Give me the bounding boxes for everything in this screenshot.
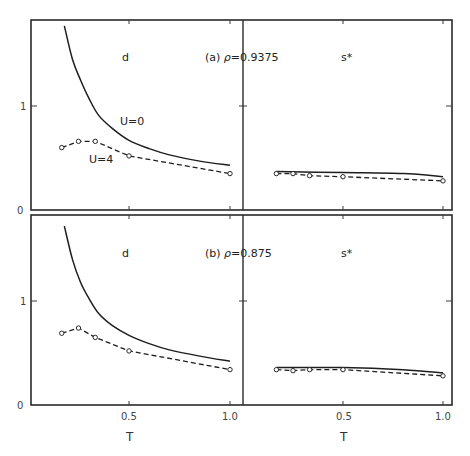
panel-a-s-label: s* [341, 51, 353, 64]
panel-a-d-series-u0-line [64, 26, 230, 165]
panel-a-s-point [341, 175, 345, 179]
panel-b-d-point [127, 349, 131, 353]
panel-b-d-series-u4-line [62, 328, 230, 370]
panel-a-s-point [441, 179, 445, 183]
panel-a-rho: ρ [224, 51, 231, 64]
panel-b-rho: ρ [224, 247, 231, 260]
xlabel-d: T [125, 430, 134, 444]
annotation-u0: U=0 [120, 115, 144, 128]
xtick-b-d-0.5: 0.5 [121, 411, 137, 422]
panel-b-frame [31, 215, 452, 405]
panel-b-rho-value: =0.875 [231, 247, 272, 260]
panel-a-d-series-u4-line [62, 141, 230, 173]
panel-b-s-point [291, 368, 295, 372]
panel-a-d-point [93, 139, 97, 143]
panel-a-s-point [291, 171, 295, 175]
annotation-u4: U=4 [89, 153, 113, 166]
panel-b-d-label: d [122, 247, 129, 260]
xtick-b-d-1.0: 1.0 [222, 411, 238, 422]
panel-b-d-point [93, 335, 97, 339]
panel-a-d-label: d [122, 51, 129, 64]
panel-b-s-point [341, 367, 345, 371]
ytick-b-1: 1 [20, 296, 26, 307]
panel-b-s-point [274, 367, 278, 371]
panel-a-prefix: (a) [205, 51, 224, 64]
panel-b-s-point [441, 374, 445, 378]
panel-a-d-point [60, 145, 64, 149]
panel-b-d-point [76, 326, 80, 330]
panel-a-d-point [127, 154, 131, 158]
panel-a-frame [31, 20, 452, 210]
panel-a-rho-value: =0.9375 [231, 51, 279, 64]
panel-a-d-point [228, 171, 232, 175]
panel-a-d-point [76, 139, 80, 143]
figure: d (a) ρ=0.9375 s* U=0 U=4 d (b) ρ=0.875 … [0, 0, 470, 456]
ytick-a-0: 0 [17, 205, 23, 216]
chart-marks [60, 26, 446, 378]
xlabel-s: T [339, 430, 348, 444]
panel-b-d-point [60, 331, 64, 335]
panel-a-title: (a) ρ=0.9375 [205, 51, 279, 64]
ytick-b-0: 0 [17, 400, 23, 411]
panel-a-s-point [307, 173, 311, 177]
panel-a-s-point [274, 171, 278, 175]
panel-b-d-point [228, 367, 232, 371]
xtick-b-s-1.0: 1.0 [435, 411, 451, 422]
panel-frames [31, 20, 452, 405]
panel-b-s-label: s* [341, 247, 353, 260]
panel-b-s-point [307, 367, 311, 371]
panel-b-title: (b) ρ=0.875 [205, 247, 272, 260]
ytick-a-1: 1 [20, 101, 26, 112]
xtick-b-s-0.5: 0.5 [336, 411, 352, 422]
panel-b-prefix: (b) [205, 247, 224, 260]
